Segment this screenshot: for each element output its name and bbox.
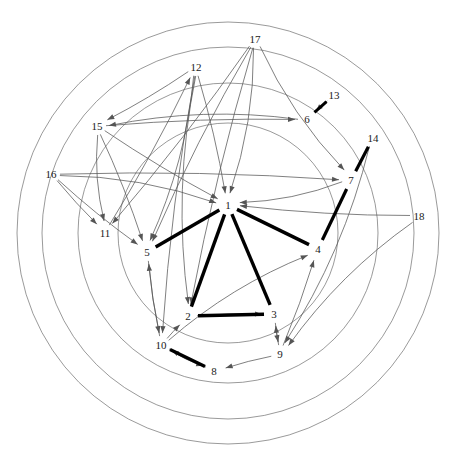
edge-10-to-5: [149, 264, 160, 336]
thick-edge-7-to-4: [322, 189, 346, 240]
node-label-5[interactable]: 5: [144, 247, 150, 258]
node-label-7[interactable]: 7: [348, 175, 354, 186]
edge-15-to-6: [106, 119, 295, 126]
arrowhead-7-to-1: [240, 200, 247, 205]
edge-16-to-11: [57, 181, 97, 225]
arrowhead-9-to-8: [226, 363, 233, 368]
thick-edge-1-to-5: [156, 210, 220, 247]
node-label-8[interactable]: 8: [211, 366, 217, 377]
node-label-16[interactable]: 16: [46, 169, 57, 180]
arrowhead-10-to-4: [300, 255, 307, 260]
node-label-1[interactable]: 1: [225, 200, 231, 211]
thick-edges-layer: [156, 102, 369, 367]
edge-9-to-8: [226, 356, 272, 368]
node-label-9[interactable]: 9: [277, 349, 283, 360]
thick-edge-10-to-8: [170, 349, 205, 366]
edge-16-to-5: [58, 180, 138, 245]
node-label-11[interactable]: 11: [100, 228, 111, 239]
edge-11-to-12: [109, 78, 190, 226]
thick-edge-13-to-6: [314, 102, 326, 113]
figure-canvas: 123456789101112131415161718: [0, 0, 452, 465]
node-label-14[interactable]: 14: [368, 133, 379, 144]
arrowhead-12-to-15: [107, 114, 114, 120]
concentric-circle-2: [42, 47, 414, 419]
edge-5-to-10: [148, 261, 159, 333]
node-label-18[interactable]: 18: [414, 211, 425, 222]
edge-12-to-1: [198, 76, 225, 194]
edge-12-to-15: [107, 72, 188, 120]
concentric-circle-1: [17, 22, 439, 444]
node-label-4[interactable]: 4: [315, 244, 321, 255]
node-label-10[interactable]: 10: [156, 340, 167, 351]
edge-12-to-10: [162, 76, 194, 333]
edge-18-to-9: [289, 222, 413, 345]
arrowhead-12-to-1: [222, 186, 227, 193]
edge-15-to-5: [100, 134, 142, 240]
arrowhead-12-to-2: [185, 297, 190, 304]
thick-edge-1-to-3: [232, 214, 270, 305]
node-label-2[interactable]: 2: [185, 311, 191, 322]
edge-12-to-5: [150, 76, 194, 241]
concentric-circle-3: [78, 83, 378, 383]
arrowhead-15-to-6: [288, 117, 295, 122]
edge-14-to-9: [285, 146, 370, 343]
arrowhead-16-to-7: [332, 177, 339, 182]
arrowhead-6-to-15: [109, 122, 116, 127]
arrowhead-17-to-1: [230, 186, 235, 193]
thick-edge-2-to-3: [198, 314, 264, 316]
edge-16-to-7: [60, 173, 339, 180]
edge-9-to-4: [283, 260, 314, 345]
arrowhead-3-to-9: [274, 335, 279, 342]
arrowhead-15-to-5: [138, 233, 143, 240]
arrowhead-11-to-12: [185, 78, 190, 85]
node-label-15[interactable]: 15: [92, 121, 103, 132]
graph-svg: [0, 0, 452, 465]
node-label-12[interactable]: 12: [191, 62, 202, 73]
node-label-13[interactable]: 13: [329, 90, 340, 101]
edge-18-to-1: [240, 206, 410, 216]
arrowhead-9-to-4: [309, 260, 314, 267]
thick-edge-1-to-2: [191, 214, 224, 306]
thick-edge-1-to-4: [237, 209, 309, 244]
concentric-circles: [17, 22, 439, 444]
edge-16-to-1: [60, 176, 216, 203]
node-label-3[interactable]: 3: [271, 309, 277, 320]
arrowhead-12-to-10: [160, 326, 165, 333]
arrowhead-16-to-5: [130, 238, 137, 244]
thin-edges-layer: [57, 46, 413, 368]
edge-17-to-1: [230, 48, 254, 193]
node-label-6[interactable]: 6: [304, 114, 310, 125]
arrowhead-16-to-1: [209, 198, 216, 203]
edge-17-to-5: [152, 47, 251, 241]
node-label-17[interactable]: 17: [250, 34, 261, 45]
arrowhead-5-to-10: [155, 326, 160, 333]
